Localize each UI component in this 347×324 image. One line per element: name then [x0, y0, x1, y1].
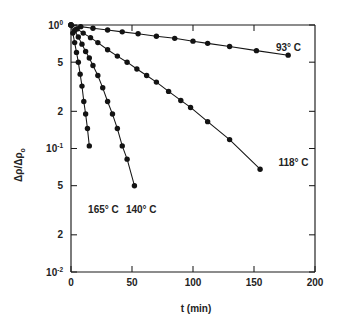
- data-point: [134, 66, 139, 71]
- series-label: 140° C: [126, 204, 157, 215]
- data-point: [190, 38, 195, 43]
- data-point: [77, 71, 82, 76]
- data-point: [87, 143, 92, 148]
- data-point: [120, 29, 125, 34]
- data-point: [90, 63, 95, 68]
- data-point: [70, 30, 75, 35]
- data-point: [90, 26, 95, 31]
- data-point: [257, 166, 262, 171]
- data-point: [227, 44, 232, 49]
- data-point: [76, 34, 81, 39]
- data-point: [105, 27, 110, 32]
- series-label: 118° C: [278, 157, 308, 168]
- data-point: [76, 59, 81, 64]
- x-axis-title-text: t (min): [181, 303, 212, 314]
- data-point: [227, 137, 232, 142]
- y-axis-title: Δρ/Δρo: [13, 148, 26, 182]
- data-point: [87, 55, 92, 60]
- y-axis-title-text: Δρ/Δρo: [13, 148, 26, 182]
- data-point: [95, 73, 100, 78]
- data-point: [100, 85, 105, 90]
- data-point: [120, 143, 125, 148]
- data-point: [188, 105, 193, 110]
- data-point: [95, 40, 100, 45]
- data-point: [154, 79, 159, 84]
- data-point: [81, 30, 86, 35]
- data-point: [68, 22, 73, 27]
- series-label: 165° C: [88, 204, 119, 215]
- x-tick-label: 100: [185, 277, 202, 288]
- data-point: [205, 119, 210, 124]
- data-point: [135, 31, 140, 36]
- data-point: [115, 126, 120, 131]
- data-point: [178, 98, 183, 103]
- data-point: [81, 99, 86, 104]
- data-point: [110, 111, 115, 116]
- data-point: [83, 111, 88, 116]
- data-point: [144, 73, 149, 78]
- data-point: [72, 40, 77, 45]
- data-point: [124, 156, 129, 161]
- data-point: [254, 48, 259, 53]
- y-tick-label: 2: [57, 229, 63, 240]
- data-point: [166, 89, 171, 94]
- data-point: [124, 59, 129, 64]
- data-point: [85, 126, 90, 131]
- decay-log-plot: 1005210-15210-2 050100150200 93° C118° C…: [0, 0, 347, 324]
- series-label: 93° C: [276, 42, 301, 53]
- data-point: [79, 83, 84, 88]
- data-point: [154, 34, 159, 39]
- data-point: [88, 35, 93, 40]
- y-tick-label: 5: [57, 57, 63, 68]
- y-tick-label: 2: [57, 106, 63, 117]
- y-tick-label: 5: [57, 180, 63, 191]
- x-tick-label: 150: [246, 277, 263, 288]
- x-tick-label: 50: [126, 277, 138, 288]
- data-point: [205, 41, 210, 46]
- data-point: [105, 99, 110, 104]
- x-tick-label: 200: [307, 277, 324, 288]
- data-point: [172, 36, 177, 41]
- data-point: [83, 49, 88, 54]
- data-point: [79, 41, 84, 46]
- data-point: [115, 53, 120, 58]
- data-point: [105, 47, 110, 52]
- figure-container: 1005210-15210-2 050100150200 93° C118° C…: [0, 0, 347, 324]
- data-point: [74, 50, 79, 55]
- data-point: [285, 52, 290, 57]
- x-tick-label: 0: [68, 277, 74, 288]
- data-point: [132, 183, 137, 188]
